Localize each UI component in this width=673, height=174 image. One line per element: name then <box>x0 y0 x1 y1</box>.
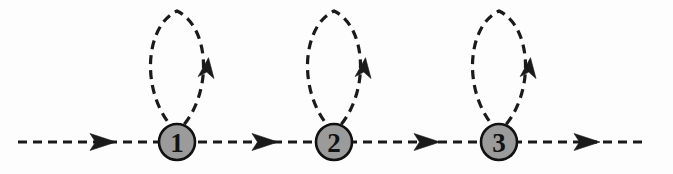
vertex-label-3: 3 <box>492 128 506 158</box>
tadpole-loop-2 <box>307 11 360 132</box>
loop-arrowhead-3 <box>520 57 538 79</box>
vertex-blob-2[interactable]: 2 <box>316 124 352 160</box>
tadpole-loops-group <box>150 11 538 132</box>
vertex-label-2: 2 <box>327 128 341 158</box>
tadpole-loop-3 <box>472 11 525 132</box>
propagator-arrowhead-3 <box>414 134 440 151</box>
vertices-group: 123 <box>159 124 517 160</box>
feynman-diagram: 123 <box>0 0 673 174</box>
tadpole-loop-1 <box>150 11 203 132</box>
propagator-arrowhead-2 <box>252 134 278 151</box>
loop-arrowhead-1 <box>198 57 216 79</box>
loop-arrowhead-2 <box>355 57 373 79</box>
vertex-label-1: 1 <box>170 128 184 158</box>
vertex-blob-1[interactable]: 1 <box>159 124 195 160</box>
vertex-blob-3[interactable]: 3 <box>481 124 517 160</box>
figure-canvas: 123 <box>0 0 673 174</box>
